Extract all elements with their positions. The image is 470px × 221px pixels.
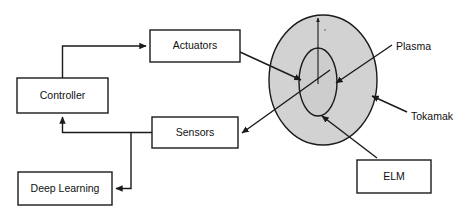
node-sensors-label: Sensors — [176, 126, 215, 138]
control-loop-diagram: z Controller Actuators Sensors Deep Lear… — [0, 0, 470, 221]
annotation-tokamak-label: Tokamak — [411, 110, 454, 122]
edge-sensors-to-controller — [63, 117, 153, 133]
node-actuators-label: Actuators — [173, 39, 217, 51]
z-axis-label: z — [324, 27, 326, 32]
edge-controller-to-actuators — [63, 46, 147, 78]
leader-tokamak — [372, 96, 407, 112]
node-elm-label: ELM — [383, 170, 405, 182]
edge-sensors-to-deep-learning — [116, 133, 131, 189]
node-deep-learning-label: Deep Learning — [31, 182, 100, 194]
node-controller-label: Controller — [40, 89, 86, 101]
annotation-plasma-label: Plasma — [396, 40, 431, 52]
diagram-canvas: z Controller Actuators Sensors Deep Lear… — [0, 0, 470, 221]
